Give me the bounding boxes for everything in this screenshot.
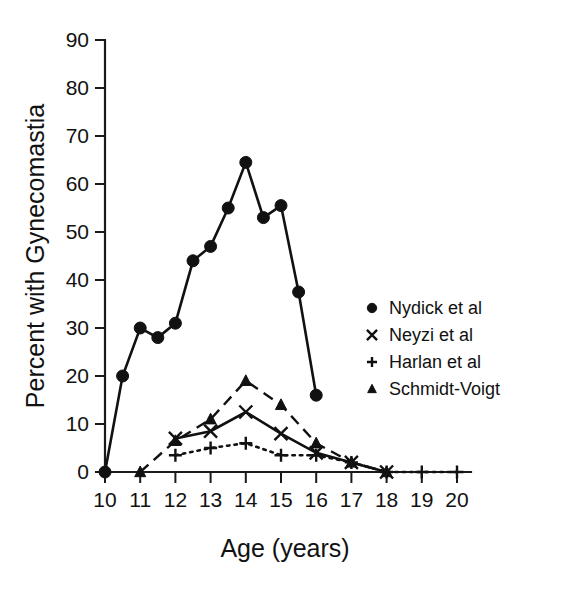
x-tick-label: 20 <box>445 488 468 511</box>
x-tick-label: 17 <box>340 488 363 511</box>
axis-lines <box>105 40 471 472</box>
axes <box>105 40 471 472</box>
y-tick-label: 20 <box>66 364 89 387</box>
series-schmidt-voigt <box>135 375 392 477</box>
marker-circle <box>367 303 376 312</box>
marker-triangle <box>368 384 377 392</box>
y-tick-label: 40 <box>66 268 89 291</box>
legend-label: Schmidt-Voigt <box>389 379 500 399</box>
marker-plus <box>415 466 428 479</box>
x-tick-label: 11 <box>129 488 151 511</box>
y-tick-label: 90 <box>66 28 89 51</box>
marker-plus <box>367 357 377 367</box>
marker-circle <box>293 286 305 298</box>
x-tick-label: 10 <box>93 488 116 511</box>
chart-container: 0102030405060708090 10111213141516171819… <box>0 0 566 593</box>
series-line <box>140 381 386 472</box>
x-tick-label: 19 <box>410 488 433 511</box>
x-tick-label: 18 <box>375 488 398 511</box>
marker-circle <box>240 156 252 168</box>
legend-label: Nydick et al <box>389 298 482 318</box>
marker-triangle <box>240 375 251 386</box>
marker-circle <box>134 322 146 334</box>
x-axis-title: Age (years) <box>220 534 349 562</box>
series-neyzi-et-al <box>169 406 393 479</box>
legend-label: Neyzi et al <box>389 325 473 345</box>
x-tick-label: 16 <box>305 488 328 511</box>
marker-circle <box>117 370 129 382</box>
marker-circle <box>99 466 111 478</box>
marker-circle <box>205 240 217 252</box>
x-tick-label: 15 <box>269 488 292 511</box>
x-tick-label: 13 <box>199 488 222 511</box>
y-tick-label: 80 <box>66 76 89 99</box>
y-tick-label: 50 <box>66 220 89 243</box>
marker-triangle <box>275 399 286 410</box>
chart-legend: Nydick et alNeyzi et alHarlan et alSchmi… <box>367 298 500 399</box>
marker-plus <box>451 466 464 479</box>
marker-x <box>239 406 252 419</box>
y-tick-label: 70 <box>66 124 89 147</box>
marker-plus <box>275 449 288 462</box>
y-tick-label: 10 <box>66 412 89 435</box>
marker-plus <box>169 449 182 462</box>
x-axis-ticks: 1011121314151617181920 <box>93 472 468 511</box>
marker-circle <box>275 200 287 212</box>
legend-item-harlan-et-al: Harlan et al <box>367 352 481 372</box>
legend-item-neyzi-et-al: Neyzi et al <box>367 325 473 345</box>
marker-circle <box>169 317 181 329</box>
y-axis-ticks: 0102030405060708090 <box>66 28 105 483</box>
y-tick-label: 30 <box>66 316 89 339</box>
marker-circle <box>187 255 199 267</box>
marker-x <box>275 427 288 440</box>
marker-plus <box>239 437 252 450</box>
y-tick-label: 0 <box>77 460 89 483</box>
marker-circle <box>310 389 322 401</box>
x-tick-label: 14 <box>234 488 258 511</box>
marker-x <box>367 330 377 340</box>
marker-circle <box>257 212 269 224</box>
y-tick-label: 60 <box>66 172 89 195</box>
marker-circle <box>222 202 234 214</box>
legend-item-schmidt-voigt: Schmidt-Voigt <box>368 379 500 399</box>
marker-plus <box>204 442 217 455</box>
legend-label: Harlan et al <box>389 352 481 372</box>
marker-triangle <box>311 437 322 448</box>
gynecomastia-line-chart: 0102030405060708090 10111213141516171819… <box>0 0 566 593</box>
marker-circle <box>152 332 164 344</box>
x-tick-label: 12 <box>164 488 187 511</box>
legend-item-nydick-et-al: Nydick et al <box>367 298 482 318</box>
y-axis-title: Percent with Gynecomastia <box>21 104 49 408</box>
